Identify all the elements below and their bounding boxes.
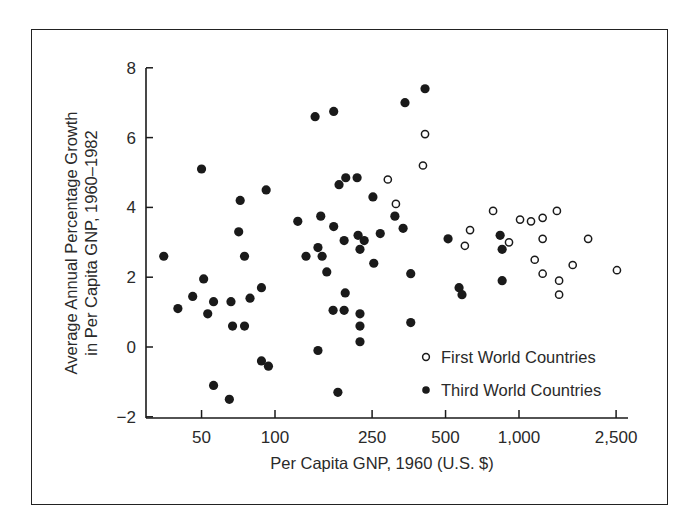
open-circle-icon bbox=[423, 354, 430, 361]
third-world-point bbox=[341, 173, 350, 182]
third-world-point bbox=[355, 337, 364, 346]
third-world-point bbox=[234, 227, 243, 236]
third-world-point bbox=[400, 98, 409, 107]
first-world-point bbox=[527, 218, 534, 225]
third-world-point bbox=[225, 395, 234, 404]
third-world-point bbox=[316, 212, 325, 221]
first-world-point bbox=[531, 256, 538, 263]
third-world-point bbox=[498, 276, 507, 285]
third-world-point bbox=[311, 112, 320, 121]
third-world-point bbox=[399, 224, 408, 233]
first-world-point bbox=[585, 235, 592, 242]
third-world-point bbox=[188, 292, 197, 301]
first-world-point bbox=[421, 131, 428, 138]
y-tick-label: 4 bbox=[127, 198, 136, 217]
third-world-point bbox=[341, 288, 350, 297]
first-world-point bbox=[539, 270, 546, 277]
legend: First World Countries Third World Countr… bbox=[422, 348, 601, 399]
third-world-point bbox=[262, 185, 271, 194]
third-world-point bbox=[173, 304, 182, 313]
first-world-point bbox=[553, 207, 560, 214]
third-world-point bbox=[329, 107, 338, 116]
legend-item-first-world: First World Countries bbox=[423, 348, 596, 366]
first-world-point bbox=[556, 277, 563, 284]
third-world-point bbox=[406, 318, 415, 327]
first-world-point bbox=[461, 242, 468, 249]
x-tick-label: 1,000 bbox=[498, 428, 541, 447]
y-axis-title-line-1: Average Annual Percentage Growth bbox=[62, 112, 80, 375]
third-world-point bbox=[199, 274, 208, 283]
third-world-point bbox=[236, 196, 245, 205]
third-world-point bbox=[406, 269, 415, 278]
third-world-point bbox=[457, 290, 466, 299]
y-tick-label: 0 bbox=[127, 338, 136, 357]
legend-label-third-world: Third World Countries bbox=[441, 381, 601, 399]
third-world-point bbox=[245, 294, 254, 303]
scatter-plot: −202468 501002505001,0002,500 Per Capita… bbox=[0, 0, 690, 532]
third-world-point bbox=[340, 236, 349, 245]
first-world-point bbox=[384, 176, 391, 183]
x-tick-label: 2,500 bbox=[595, 428, 638, 447]
first-world-point bbox=[556, 291, 563, 298]
third-world-point bbox=[340, 306, 349, 315]
third-world-point bbox=[228, 321, 237, 330]
third-world-point bbox=[197, 164, 206, 173]
third-world-point bbox=[498, 245, 507, 254]
third-world-point bbox=[209, 381, 218, 390]
third-world-point bbox=[420, 84, 429, 93]
third-world-point bbox=[355, 321, 364, 330]
first-world-point bbox=[516, 216, 523, 223]
third-world-point bbox=[369, 259, 378, 268]
first-world-point bbox=[539, 235, 546, 242]
third-world-point bbox=[203, 309, 212, 318]
first-world-point bbox=[466, 226, 473, 233]
y-tick-label: 8 bbox=[127, 59, 136, 78]
third-world-point bbox=[301, 252, 310, 261]
third-world-point bbox=[226, 297, 235, 306]
legend-item-third-world: Third World Countries bbox=[422, 381, 601, 399]
third-world-point bbox=[390, 212, 399, 221]
x-tick-label: 500 bbox=[431, 428, 459, 447]
third-world-point bbox=[313, 243, 322, 252]
first-world-point bbox=[569, 261, 576, 268]
third-world-point bbox=[334, 180, 343, 189]
first-world-points bbox=[384, 131, 620, 299]
third-world-point bbox=[496, 231, 505, 240]
first-world-point bbox=[419, 162, 426, 169]
first-world-point bbox=[613, 267, 620, 274]
y-axis-title-line-2: in Per Capita GNP, 1960–1982 bbox=[82, 130, 100, 355]
third-world-point bbox=[318, 252, 327, 261]
filled-circle-icon bbox=[422, 386, 430, 394]
third-world-point bbox=[313, 346, 322, 355]
third-world-point bbox=[333, 388, 342, 397]
third-world-point bbox=[328, 306, 337, 315]
y-axis-title: Average Annual Percentage Growth in Per … bbox=[62, 112, 100, 375]
third-world-point bbox=[368, 192, 377, 201]
first-world-point bbox=[539, 214, 546, 221]
third-world-point bbox=[159, 252, 168, 261]
third-world-point bbox=[209, 297, 218, 306]
x-tick-label: 100 bbox=[261, 428, 289, 447]
third-world-point bbox=[264, 362, 273, 371]
third-world-point bbox=[329, 222, 338, 231]
third-world-point bbox=[355, 245, 364, 254]
x-axis-title: Per Capita GNP, 1960 (U.S. $) bbox=[270, 454, 493, 472]
third-world-point bbox=[355, 309, 364, 318]
third-world-point bbox=[322, 267, 331, 276]
y-tick-label: 2 bbox=[127, 268, 136, 287]
third-world-point bbox=[443, 234, 452, 243]
x-tick-label: 250 bbox=[358, 428, 386, 447]
third-world-point bbox=[240, 321, 249, 330]
first-world-point bbox=[505, 239, 512, 246]
third-world-point bbox=[360, 236, 369, 245]
first-world-point bbox=[489, 207, 496, 214]
third-world-point bbox=[293, 217, 302, 226]
legend-label-first-world: First World Countries bbox=[441, 348, 596, 366]
x-axis-ticks: 501002505001,0002,500 bbox=[192, 410, 637, 447]
first-world-point bbox=[392, 200, 399, 207]
y-axis-ticks: −202468 bbox=[117, 59, 153, 427]
third-world-point bbox=[352, 173, 361, 182]
y-tick-label: 6 bbox=[127, 129, 136, 148]
third-world-point bbox=[257, 283, 266, 292]
x-tick-label: 50 bbox=[192, 428, 211, 447]
